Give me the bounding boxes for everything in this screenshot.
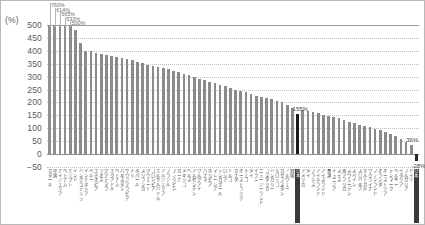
bar: [69, 25, 72, 154]
bar: [270, 99, 273, 154]
bar: [389, 134, 392, 154]
bar: [312, 112, 315, 154]
bar: [363, 126, 366, 154]
bar: [53, 25, 56, 154]
plot-area: 760%614%565%533%500%155%36%-28%: [47, 25, 419, 167]
bar: [48, 25, 51, 154]
gridline--50: [47, 167, 419, 168]
bar: [250, 94, 253, 154]
bar: [384, 132, 387, 154]
bar: [131, 60, 134, 154]
y-tick-label: 500: [2, 21, 42, 30]
bar: [338, 118, 341, 154]
y-tick-label: −50: [2, 163, 42, 172]
bar: [121, 58, 124, 154]
bar: [379, 130, 382, 154]
y-tick-label: 300: [2, 72, 42, 81]
bar: [229, 88, 232, 154]
bar: [188, 75, 191, 154]
x-axis-labels: カタール中国ナイジェリアベトナムエジプトインドバングラデシュインドネシアペルーエ…: [47, 169, 419, 225]
bar: [343, 120, 346, 154]
bar: [394, 136, 397, 154]
bar: [353, 123, 356, 154]
bar: [84, 51, 87, 154]
bar: [193, 77, 196, 154]
y-tick-label: 350: [2, 59, 42, 68]
bar: [245, 92, 248, 154]
bar: [234, 90, 237, 155]
bar: [374, 129, 377, 154]
bar: [239, 91, 242, 155]
bar: [296, 114, 299, 154]
bar: [136, 62, 139, 154]
y-tick-label: 0: [2, 150, 42, 159]
bar: [162, 68, 165, 154]
y-tick-label: 200: [2, 98, 42, 107]
bar: [260, 97, 263, 154]
bar: [64, 25, 67, 154]
bar: [214, 83, 217, 154]
callout-value-label: 500%: [72, 21, 86, 26]
bar: [301, 110, 304, 154]
bar: [291, 108, 294, 154]
bar: [265, 98, 268, 154]
bar: [219, 85, 222, 154]
chart-figure: (%) 760%614%565%533%500%155%36%-28% 5004…: [0, 0, 425, 225]
bar: [198, 79, 201, 154]
bar: [415, 154, 418, 161]
bar: [105, 55, 108, 154]
bar: [224, 86, 227, 154]
bar-series: [47, 25, 419, 167]
y-tick-label: 450: [2, 34, 42, 43]
bar: [348, 122, 351, 155]
bar: [208, 82, 211, 154]
bar-value-label: 155%: [293, 106, 308, 112]
bar: [317, 113, 320, 154]
bar: [79, 43, 82, 155]
bar: [332, 117, 335, 154]
bar: [146, 65, 149, 154]
bar: [110, 56, 113, 154]
bar: [327, 116, 330, 154]
bar: [74, 30, 77, 154]
y-tick-label: 150: [2, 111, 42, 120]
bar: [255, 96, 258, 154]
bar: [281, 102, 284, 154]
bar: [95, 53, 98, 154]
bar: [322, 115, 325, 154]
bar: [400, 139, 403, 154]
y-tick-label: 50: [2, 137, 42, 146]
bar: [141, 63, 144, 154]
x-axis-label: 日本: [414, 169, 419, 223]
bar: [172, 71, 175, 154]
bar: [276, 101, 279, 154]
bar: [100, 54, 103, 154]
bar: [126, 59, 129, 154]
bar: [177, 72, 180, 154]
bar: [286, 105, 289, 154]
bar: [358, 125, 361, 154]
bar: [307, 111, 310, 154]
y-tick-label: 400: [2, 47, 42, 56]
bar: [183, 74, 186, 155]
bar: [203, 80, 206, 154]
bar: [167, 69, 170, 154]
bar: [115, 57, 118, 154]
bar: [405, 142, 408, 154]
bar: [410, 145, 413, 154]
bar: [59, 25, 62, 154]
bar: [369, 127, 372, 154]
y-tick-label: 100: [2, 124, 42, 133]
y-tick-label: 250: [2, 85, 42, 94]
bar: [90, 51, 93, 154]
bar: [152, 66, 155, 154]
bar-value-label: 36%: [406, 137, 418, 143]
bar: [157, 67, 160, 154]
